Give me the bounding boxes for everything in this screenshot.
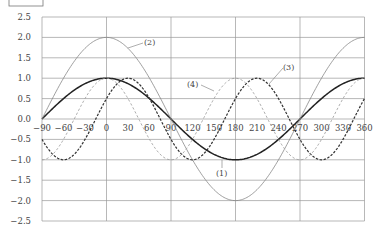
y-tick-label: 0.5 — [17, 94, 31, 104]
x-tick-label: 300 — [313, 123, 329, 133]
y-tick-label: −1.0 — [10, 155, 31, 165]
x-tick-label: 360 — [356, 123, 372, 133]
curve-label-2: (2) — [144, 38, 155, 47]
curve-label-4: (4) — [187, 80, 198, 89]
y-tick-label: 1.5 — [17, 53, 31, 63]
cosine-chart: 2.52.01.51.00.50.0−0.5−1.0−1.5−2.0−2.5 −… — [0, 0, 377, 232]
curve-label-1: (1) — [216, 169, 227, 178]
y-tick-label: 2.5 — [17, 12, 31, 22]
leader-line-4 — [201, 85, 214, 91]
y-tick-label: −2.5 — [10, 216, 31, 226]
x-tick-label: 210 — [249, 123, 265, 133]
x-tick-label: 180 — [227, 123, 243, 133]
x-tick-label: 90 — [166, 123, 177, 133]
y-tick-label: −1.5 — [10, 175, 31, 185]
x-tick-label: 120 — [184, 123, 200, 133]
y-tick-label: −0.5 — [10, 134, 31, 144]
x-tick-label: 60 — [144, 123, 155, 133]
curve-label-3: (3) — [283, 63, 294, 72]
x-tick-label: −90 — [33, 123, 51, 133]
y-tick-label: 0.0 — [17, 114, 31, 124]
curve-annotations: (2) (4) (3) (1) — [128, 38, 294, 178]
grid — [42, 17, 365, 221]
y-axis-labels: 2.52.01.51.00.50.0−0.5−1.0−1.5−2.0−2.5 — [10, 12, 31, 226]
x-tick-label: −60 — [55, 123, 73, 133]
x-axis-labels: −90−60−300306090120150180210240270300330… — [33, 123, 373, 133]
leader-line-3 — [269, 68, 283, 84]
x-tick-label: −30 — [76, 123, 94, 133]
x-tick-label: 240 — [270, 123, 286, 133]
y-tick-label: 1.0 — [17, 73, 31, 83]
corner-box — [9, 0, 43, 6]
leader-line-2 — [128, 43, 143, 48]
x-tick-label: 30 — [123, 123, 134, 133]
y-tick-label: 2.0 — [17, 32, 31, 42]
y-tick-label: −2.0 — [10, 196, 31, 206]
x-tick-label: 0 — [104, 123, 109, 133]
